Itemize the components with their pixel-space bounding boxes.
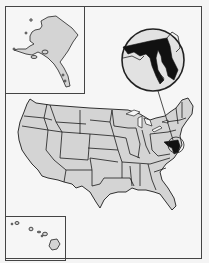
contiguous-us	[18, 98, 193, 210]
us-locator-map	[0, 0, 209, 263]
hawaii-big-island	[49, 239, 60, 250]
maryland-callout	[122, 29, 184, 91]
us-outline	[18, 98, 193, 210]
hawaii-inset	[6, 217, 66, 261]
alaska-inset	[6, 7, 85, 94]
hawaii-inset-box	[6, 217, 66, 261]
